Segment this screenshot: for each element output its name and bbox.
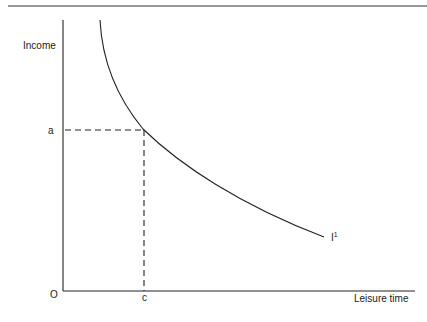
y-marker-label: a <box>48 125 54 136</box>
curve-label: I1 <box>331 231 338 243</box>
x-axis-label: Leisure time <box>354 293 409 304</box>
indifference-curve-i1 <box>100 20 324 237</box>
y-axis-label: Income <box>23 40 56 51</box>
diagram-canvas: Income a O c Leisure time I1 <box>0 0 427 322</box>
curve-label-superscript: 1 <box>334 231 338 238</box>
origin-label: O <box>50 289 58 300</box>
x-marker-label: c <box>142 292 147 303</box>
